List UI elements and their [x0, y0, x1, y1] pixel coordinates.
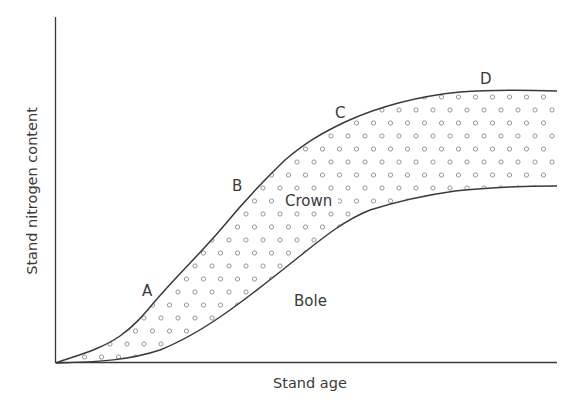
- nitrogen-accumulation-diagram: A B C D Crown Bole Stand age Stand nitro…: [0, 0, 586, 415]
- y-axis-title: Stand nitrogen content: [24, 107, 40, 275]
- point-label-a: A: [142, 282, 153, 300]
- crown-label: Crown: [285, 192, 332, 210]
- x-axis-title: Stand age: [273, 375, 347, 391]
- crown-region: [56, 90, 557, 363]
- point-label-d: D: [480, 70, 492, 88]
- point-label-b: B: [232, 177, 242, 195]
- bole-label: Bole: [294, 292, 327, 310]
- point-label-c: C: [335, 104, 345, 122]
